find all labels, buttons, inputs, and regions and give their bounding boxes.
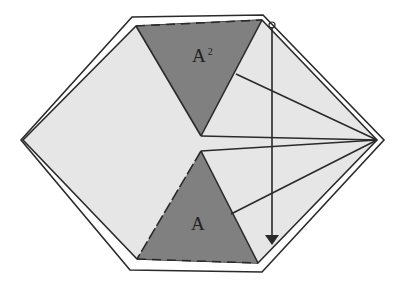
bottom-triangle-label: A	[191, 213, 205, 234]
hexagon-diagram: A2 A	[0, 0, 409, 293]
